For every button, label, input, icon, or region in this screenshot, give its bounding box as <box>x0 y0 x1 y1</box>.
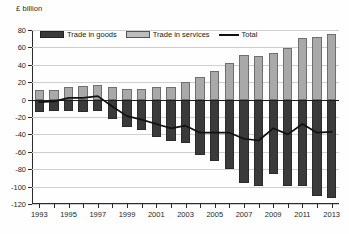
legend-item-services: Trade in services <box>126 30 210 39</box>
x-axis-label: 2005 <box>206 210 223 219</box>
y-axis-label: -80 <box>15 165 26 174</box>
legend-item-goods: Trade in goods <box>40 30 117 39</box>
y-axis-label: 60 <box>18 43 26 52</box>
x-axis-tick <box>200 204 201 208</box>
y-axis-label: -20 <box>15 113 26 122</box>
x-axis-label: 1999 <box>119 210 136 219</box>
x-axis-tick <box>244 204 245 208</box>
legend-swatch-services-icon <box>126 31 150 38</box>
x-axis-tick <box>54 204 55 208</box>
x-axis-tick <box>142 204 143 208</box>
legend-label-goods: Trade in goods <box>67 30 117 39</box>
y-axis-label: 40 <box>18 60 26 69</box>
x-axis-tick <box>288 204 289 208</box>
legend-label-services: Trade in services <box>153 30 210 39</box>
y-axis-tick <box>28 204 32 205</box>
y-axis-label: 80 <box>18 26 26 35</box>
x-axis-tick <box>317 204 318 208</box>
y-axis-label: -100 <box>11 182 26 191</box>
y-axis-label: 0 <box>22 95 26 104</box>
x-axis-tick <box>186 204 187 208</box>
plot-area: 806040200-20-40-60-80-100-120 1993199519… <box>32 30 339 204</box>
x-axis-tick <box>98 204 99 208</box>
x-axis-tick <box>273 204 274 208</box>
chart-legend: Trade in goods Trade in services Total <box>40 30 257 39</box>
x-axis-label: 2007 <box>236 210 253 219</box>
x-axis-tick <box>39 204 40 208</box>
x-axis-tick <box>156 204 157 208</box>
x-axis-tick <box>127 204 128 208</box>
x-axis-label: 1997 <box>89 210 106 219</box>
x-axis-tick <box>259 204 260 208</box>
y-axis-label: -120 <box>11 200 26 209</box>
legend-swatch-goods-icon <box>40 31 64 38</box>
legend-swatch-total-icon <box>219 34 239 36</box>
x-axis-label: 1993 <box>31 210 48 219</box>
x-axis-tick <box>171 204 172 208</box>
x-axis-tick <box>83 204 84 208</box>
y-axis-label: -40 <box>15 130 26 139</box>
x-axis-label: 2011 <box>294 210 310 219</box>
y-axis-label: -60 <box>15 147 26 156</box>
x-axis-label: 2013 <box>323 210 340 219</box>
x-axis-label: 2003 <box>177 210 194 219</box>
x-axis-tick <box>215 204 216 208</box>
x-axis-label: 2001 <box>148 210 165 219</box>
x-axis-tick <box>302 204 303 208</box>
y-axis-label: 20 <box>18 78 26 87</box>
trade-balance-chart-figure: £ billion 806040200-20-40-60-80-100-120 … <box>0 0 349 234</box>
x-axis-tick <box>69 204 70 208</box>
y-axis-unit-label: £ billion <box>16 4 42 13</box>
x-axis-tick <box>332 204 333 208</box>
x-axis-tick <box>229 204 230 208</box>
legend-item-total: Total <box>219 30 258 39</box>
x-axis-label: 2009 <box>265 210 282 219</box>
legend-label-total: Total <box>242 30 258 39</box>
x-axis-tick <box>112 204 113 208</box>
x-axis-label: 1995 <box>60 210 77 219</box>
total-line-series <box>32 30 339 204</box>
